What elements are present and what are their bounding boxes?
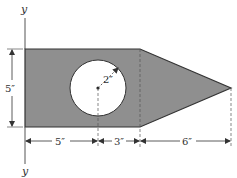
plate-shape: [25, 49, 231, 127]
y-axis-label-bottom: y: [21, 165, 29, 178]
dim-label-6in: 6″: [182, 136, 192, 147]
dim-label-5in: 5″: [55, 136, 65, 147]
composite-area-diagram: y 2″ y 5″ 5″ 3″ 6″: [0, 0, 237, 178]
dim-label-3in: 3″: [114, 136, 124, 147]
radius-label: 2″: [103, 74, 113, 85]
height-label: 5″: [5, 83, 15, 94]
y-axis-label-top: y: [20, 3, 28, 16]
